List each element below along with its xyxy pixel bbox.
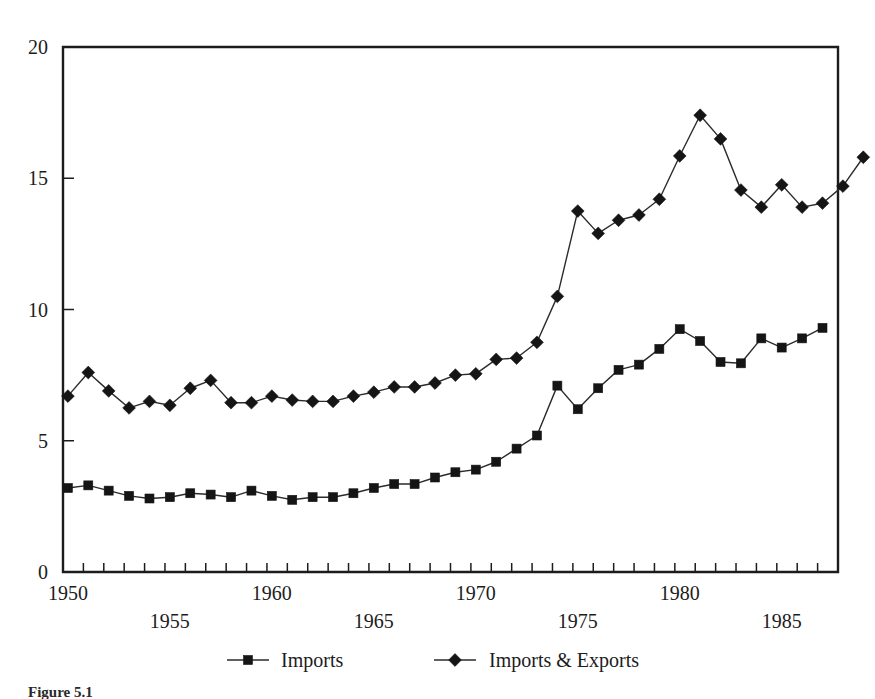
data-point-diamond-marker xyxy=(388,381,401,394)
x-tick-label: 1980 xyxy=(660,582,700,604)
data-point-diamond-marker xyxy=(612,214,625,227)
data-point-diamond-marker xyxy=(857,151,870,164)
data-point-square-marker xyxy=(369,484,378,493)
data-point-diamond-marker xyxy=(286,394,299,407)
data-point-diamond-marker xyxy=(347,390,360,403)
data-point-diamond-marker xyxy=(449,369,462,382)
data-point-square-marker xyxy=(410,480,419,489)
data-point-diamond-marker xyxy=(327,395,340,408)
data-point-square-marker xyxy=(267,491,276,500)
data-point-square-marker xyxy=(390,480,399,489)
data-point-square-marker xyxy=(288,495,297,504)
y-tick-label: 15 xyxy=(28,167,48,189)
plot-frame xyxy=(63,47,838,572)
data-point-square-marker xyxy=(186,489,195,498)
series-markers-group xyxy=(61,109,869,504)
data-point-diamond-marker xyxy=(306,395,319,408)
data-point-square-marker xyxy=(431,473,440,482)
x-tick-label: 1955 xyxy=(150,610,190,632)
legend-diamond-marker xyxy=(449,654,462,667)
data-point-square-marker xyxy=(512,444,521,453)
data-point-square-marker xyxy=(594,384,603,393)
legend-item: Imports & Exports xyxy=(434,649,639,672)
data-point-square-marker xyxy=(104,486,113,495)
legend-label: Imports & Exports xyxy=(489,649,639,672)
data-point-diamond-marker xyxy=(429,377,442,390)
data-point-square-marker xyxy=(777,343,786,352)
data-point-square-marker xyxy=(655,344,664,353)
figure-caption: Figure 5.1 xyxy=(28,684,93,699)
x-tick-label: 1975 xyxy=(558,610,598,632)
y-tick-label: 20 xyxy=(28,36,48,58)
y-tick-label: 0 xyxy=(38,561,48,583)
data-point-square-marker xyxy=(329,493,338,502)
legend-label: Imports xyxy=(281,649,343,672)
data-point-square-marker xyxy=(63,484,72,493)
data-point-square-marker xyxy=(349,489,358,498)
data-point-diamond-marker xyxy=(551,290,564,303)
chart-legend: ImportsImports & Exports xyxy=(227,649,639,672)
data-point-square-marker xyxy=(634,360,643,369)
x-axis-labels: 19501955196019651970197519801985 xyxy=(48,582,802,632)
y-tick-label: 5 xyxy=(38,430,48,452)
data-point-square-marker xyxy=(451,468,460,477)
x-tick-label: 1965 xyxy=(354,610,394,632)
series-line-imports xyxy=(68,328,823,500)
x-tick-label: 1985 xyxy=(762,610,802,632)
data-point-diamond-marker xyxy=(367,386,380,399)
line-chart: 05101520 1950195519601965197019751980198… xyxy=(0,0,875,699)
x-tick-label: 1950 xyxy=(48,582,88,604)
data-point-diamond-marker xyxy=(143,395,156,408)
data-point-square-marker xyxy=(553,381,562,390)
series-lines-group xyxy=(68,115,863,500)
data-point-diamond-marker xyxy=(408,381,421,394)
data-point-diamond-marker xyxy=(490,353,503,366)
x-tick-label: 1960 xyxy=(252,582,292,604)
data-point-square-marker xyxy=(818,323,827,332)
data-point-diamond-marker xyxy=(531,336,544,349)
y-axis-labels: 05101520 xyxy=(28,36,48,583)
data-point-square-marker xyxy=(206,490,215,499)
data-point-diamond-marker xyxy=(673,150,686,163)
data-point-square-marker xyxy=(471,465,480,474)
data-point-square-marker xyxy=(227,493,236,502)
figure-container: 05101520 1950195519601965197019751980198… xyxy=(0,0,875,699)
data-point-square-marker xyxy=(614,365,623,374)
data-point-square-marker xyxy=(696,337,705,346)
data-point-diamond-marker xyxy=(245,396,258,409)
data-point-square-marker xyxy=(716,358,725,367)
x-tick-label: 1970 xyxy=(456,582,496,604)
data-point-square-marker xyxy=(532,431,541,440)
data-point-diamond-marker xyxy=(265,390,278,403)
data-point-diamond-marker xyxy=(653,193,666,206)
data-point-square-marker xyxy=(165,493,174,502)
data-point-square-marker xyxy=(145,494,154,503)
x-axis-ticks xyxy=(83,563,817,572)
data-point-square-marker xyxy=(247,486,256,495)
data-point-square-marker xyxy=(84,481,93,490)
data-point-square-marker xyxy=(757,334,766,343)
legend-item: Imports xyxy=(227,649,343,672)
data-point-diamond-marker xyxy=(510,352,523,365)
data-point-square-marker xyxy=(125,491,134,500)
data-point-square-marker xyxy=(492,457,501,466)
y-tick-label: 10 xyxy=(28,299,48,321)
data-point-square-marker xyxy=(736,359,745,368)
data-point-diamond-marker xyxy=(469,367,482,380)
data-point-square-marker xyxy=(308,493,317,502)
data-point-square-marker xyxy=(675,325,684,334)
data-point-square-marker xyxy=(573,405,582,414)
data-point-square-marker xyxy=(798,334,807,343)
data-point-diamond-marker xyxy=(633,209,646,222)
legend-square-marker xyxy=(244,656,253,665)
